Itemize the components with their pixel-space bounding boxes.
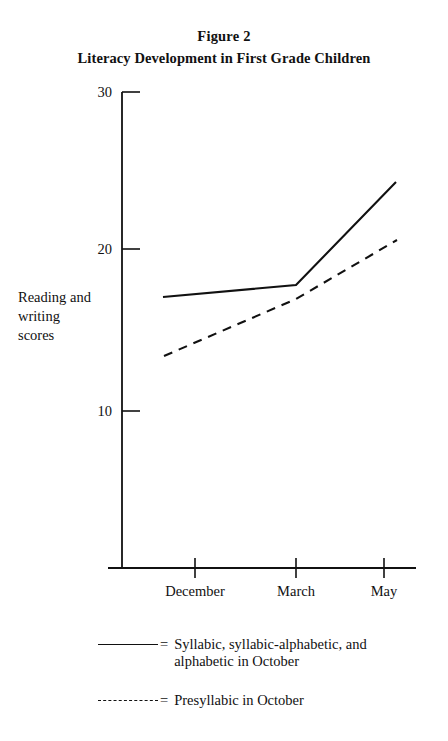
chart-legend: = Syllabic, syllabic-alphabetic, and alp… <box>98 636 438 709</box>
y-axis-title-line-2: writing <box>18 307 118 326</box>
y-tick-label-20: 20 <box>66 242 112 256</box>
legend-item-presyllabic: = Presyllabic in October <box>98 692 438 709</box>
series-line-syllabic <box>163 182 396 297</box>
figure-root: Figure 2 Literacy Development in First G… <box>0 0 448 741</box>
series-line-presyllabic <box>164 240 397 356</box>
legend-label-presyllabic: Presyllabic in October <box>174 692 438 709</box>
legend-label-syllabic-line-2: alphabetic in October <box>174 653 299 669</box>
legend-label-syllabic-line-1: Syllabic, syllabic-alphabetic, and <box>174 636 366 652</box>
x-tick-label-december: December <box>140 583 250 599</box>
x-tick-label-may: May <box>329 583 439 599</box>
legend-label-syllabic: Syllabic, syllabic-alphabetic, and alpha… <box>174 636 438 670</box>
legend-equals-sign-2: = <box>160 692 174 709</box>
y-tick-label-10: 10 <box>66 404 112 418</box>
y-axis-title: Reading and writing scores <box>18 288 118 345</box>
y-tick-label-30: 30 <box>66 85 112 99</box>
legend-key-solid-line-icon <box>98 636 160 653</box>
chart-canvas <box>0 0 448 741</box>
y-axis-title-line-1: Reading and <box>18 288 118 307</box>
legend-item-syllabic: = Syllabic, syllabic-alphabetic, and alp… <box>98 636 438 670</box>
y-axis-title-line-3: scores <box>18 326 118 345</box>
legend-equals-sign-1: = <box>160 636 174 653</box>
legend-key-dashed-line-icon <box>98 692 160 709</box>
